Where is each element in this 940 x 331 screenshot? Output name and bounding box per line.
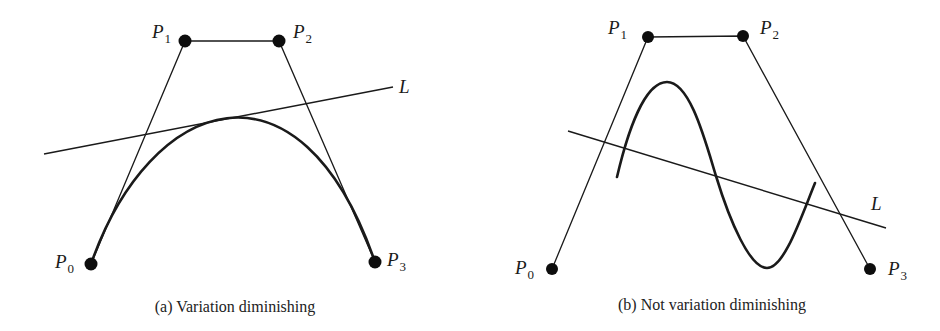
control-point-p2-b xyxy=(737,30,749,42)
panel-b: P0 P1 P2 P3 L (b) Not variation diminish… xyxy=(514,17,907,314)
caption-b: (b) Not variation diminishing xyxy=(618,296,806,314)
label-line-b: L xyxy=(870,193,882,214)
control-point-p0-b xyxy=(546,263,558,275)
label-p2-a: P2 xyxy=(292,21,312,46)
bezier-curve-a xyxy=(91,118,375,264)
control-point-p2-a xyxy=(273,35,286,48)
control-polygon-b xyxy=(552,36,870,269)
label-p1-b: P1 xyxy=(607,17,627,42)
label-p3-a: P3 xyxy=(386,249,406,274)
panel-a: P0 P1 P2 P3 L (a) Variation diminishing xyxy=(44,21,410,316)
label-p2-b: P2 xyxy=(759,17,779,42)
control-point-p3-a xyxy=(369,256,382,269)
control-point-p3-b xyxy=(864,263,876,275)
label-line-a: L xyxy=(398,76,410,97)
non-vd-curve-b xyxy=(617,82,815,268)
label-p0-a: P0 xyxy=(54,251,74,276)
control-point-p0-a xyxy=(85,258,98,271)
control-point-p1-a xyxy=(179,35,192,48)
label-p0-b: P0 xyxy=(514,257,534,282)
control-polygon-a xyxy=(91,41,375,264)
line-L-b xyxy=(568,131,886,228)
caption-a: (a) Variation diminishing xyxy=(155,298,316,316)
control-point-p1-b xyxy=(642,31,654,43)
label-p3-b: P3 xyxy=(887,258,907,283)
label-p1-a: P1 xyxy=(151,21,171,46)
figure-canvas: P0 P1 P2 P3 L (a) Variation diminishing … xyxy=(0,0,940,331)
